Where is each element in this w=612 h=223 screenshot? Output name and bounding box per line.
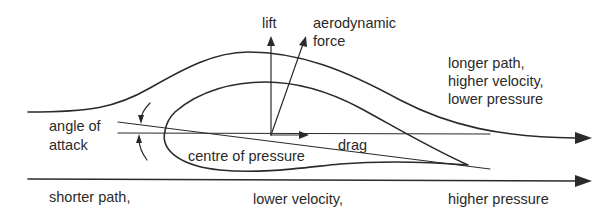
lower-flow-label-velocity: lower velocity, bbox=[253, 191, 343, 207]
drag-arrow bbox=[271, 131, 309, 139]
drag-label: drag bbox=[338, 137, 367, 153]
airfoil-diagram: lift aerodynamic force longer path, high… bbox=[0, 0, 612, 223]
angle-of-attack-arc bbox=[136, 103, 150, 160]
lift-arrow bbox=[267, 36, 275, 135]
upper-flow-label-line1: longer path, bbox=[448, 55, 525, 71]
upper-flow-label-line3: lower pressure bbox=[448, 91, 543, 107]
lift-label: lift bbox=[262, 15, 277, 31]
angle-of-attack-label-line2: attack bbox=[49, 137, 88, 153]
lower-flow-label-pressure: higher pressure bbox=[448, 191, 549, 207]
aerodynamic-force-label-line2: force bbox=[313, 33, 345, 49]
lower-streamline-arrow bbox=[28, 175, 592, 187]
upper-flow-label-line2: higher velocity, bbox=[448, 73, 544, 89]
aerodynamic-force-label-line1: aerodynamic bbox=[313, 15, 396, 31]
lower-flow-label-shorter-path: shorter path, bbox=[49, 189, 130, 205]
angle-of-attack-label-line1: angle of bbox=[49, 118, 102, 134]
centre-of-pressure-label: centre of pressure bbox=[188, 148, 305, 164]
